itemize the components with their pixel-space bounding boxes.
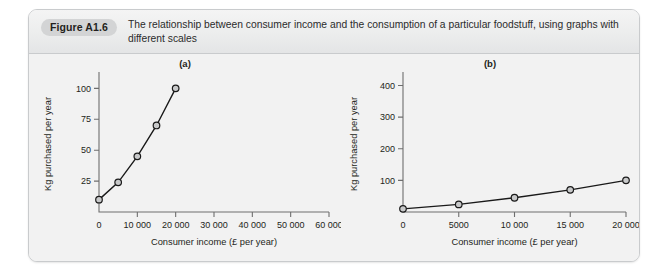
data-point-marker [115,179,122,186]
chart-panel-a: (a) 255075100010 00020 00030 00040 00050… [29,54,341,262]
y-tick-label: 300 [380,112,395,122]
chart-b-plot: 1002003004000500010 00015 00020 000Consu… [341,54,639,262]
data-point-marker [153,122,160,129]
data-point-marker [400,206,407,213]
x-tick-label: 20 000 [162,220,190,230]
figure-container: Figure A1.6 The relationship between con… [28,9,640,262]
x-axis-title: Consumer income (£ per year) [151,237,277,247]
x-tick-label: 15 000 [556,220,584,230]
y-tick-label: 50 [81,145,91,155]
y-tick-label: 100 [380,176,395,186]
x-tick-label: 5000 [449,220,469,230]
x-tick-label: 20 000 [612,220,639,230]
data-point-marker [96,196,103,203]
y-tick-label: 25 [81,176,91,186]
axis-lines [99,72,329,212]
figure-caption-text: The relationship between consumer income… [128,18,627,46]
y-axis-title: Kg purchased per year [43,97,53,191]
x-tick-label: 30 000 [200,220,228,230]
charts-area: (a) 255075100010 00020 00030 00040 00050… [29,54,639,262]
y-tick-label: 75 [81,114,91,124]
x-tick-label: 0 [400,220,405,230]
axis-lines [403,72,626,212]
figure-caption-bar: Figure A1.6 The relationship between con… [29,10,639,54]
x-tick-label: 0 [96,220,101,230]
y-tick-label: 400 [380,81,395,91]
x-axis-title: Consumer income (£ per year) [451,237,577,247]
data-point-marker [623,177,630,184]
y-tick-label: 100 [76,84,91,94]
x-tick-label: 10 000 [124,220,152,230]
y-axis-title: Kg purchased per year [349,97,359,191]
x-tick-label: 60 000 [315,220,341,230]
y-tick-label: 200 [380,144,395,154]
data-point-marker [511,194,518,201]
figure-number-badge: Figure A1.6 [41,19,117,36]
chart-a-plot: 255075100010 00020 00030 00040 00050 000… [29,54,341,262]
data-point-marker [134,153,141,160]
data-point-marker [172,85,179,92]
x-tick-label: 10 000 [501,220,529,230]
series-line [99,88,176,199]
chart-panel-b: (b) 1002003004000500010 00015 00020 000C… [341,54,639,262]
x-tick-label: 50 000 [277,220,305,230]
data-point-marker [567,187,574,194]
x-tick-label: 40 000 [239,220,267,230]
data-point-marker [455,201,462,208]
